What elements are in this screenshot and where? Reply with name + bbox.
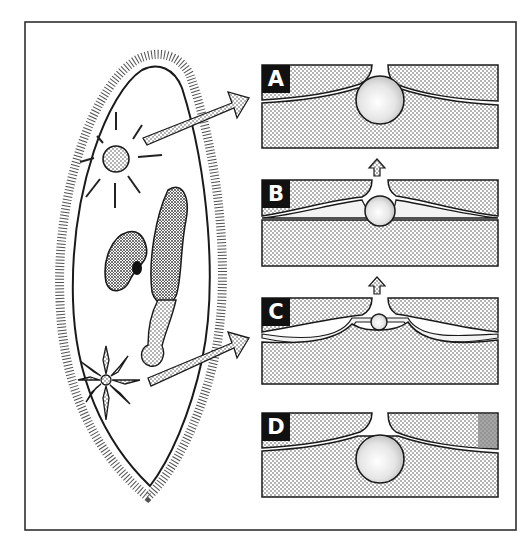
vacuole-d [356,435,404,483]
panel-b [262,180,498,266]
shaded-region-d [478,414,497,448]
panel-d-label: D [262,413,290,441]
vacuole-c [371,314,387,330]
panel-b-label: B [262,180,290,208]
panel-a-label: A [262,65,290,93]
panel-d [262,413,498,497]
micronucleus [132,261,142,275]
vacuole-b [365,196,395,226]
panel-c [262,298,498,384]
panel-c-label: C [262,298,290,326]
arrow-b-to-a [369,159,385,176]
arrow-c-to-b [369,277,385,294]
panel-a [262,65,498,148]
vacuole-a [356,76,404,124]
